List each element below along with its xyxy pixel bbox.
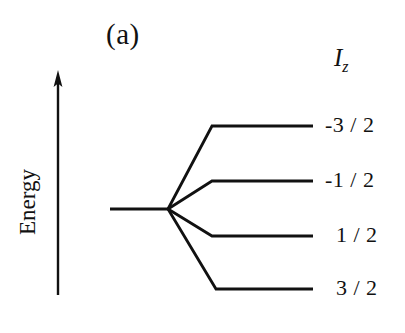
level-line-plus-one-half [168,209,313,236]
energy-axis-label: Energy [15,169,41,235]
level-label-plus-three-halves: 3 / 2 [336,275,378,301]
energy-axis-arrow [54,70,63,295]
level-label-minus-three-halves: -3 / 2 [325,112,374,138]
level-label-plus-one-half: 1 / 2 [336,222,378,248]
split-level-group [168,126,313,289]
energy-level-diagram: (a) Iz Energy -3 / 2 -1 / 2 1 / 2 3 / 2 [0,0,405,333]
panel-label: (a) [106,18,140,51]
iz-subscript: z [342,58,348,75]
level-line-minus-one-half [168,181,313,209]
iz-column-heading: Iz [334,44,349,76]
level-label-minus-one-half: -1 / 2 [325,167,374,193]
